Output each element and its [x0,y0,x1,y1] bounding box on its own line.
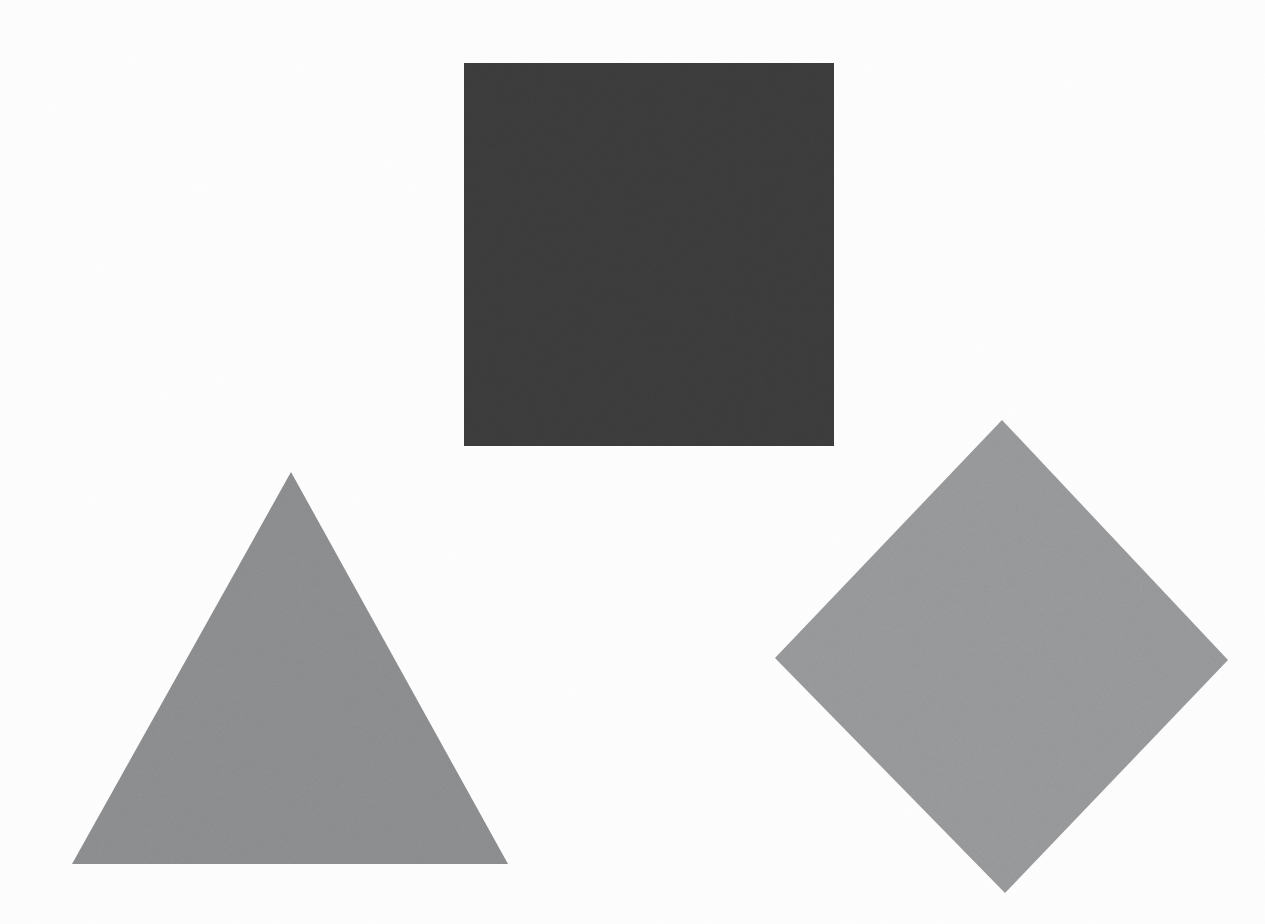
dark-square-shape [464,63,834,446]
page-canvas: Geometric Shapes Scan Three solid grey g… [0,0,1265,924]
light-diamond-shape [775,420,1228,893]
grey-triangle-shape [72,472,508,864]
shape-layer [0,0,1265,924]
shapes-svg [0,0,1265,924]
